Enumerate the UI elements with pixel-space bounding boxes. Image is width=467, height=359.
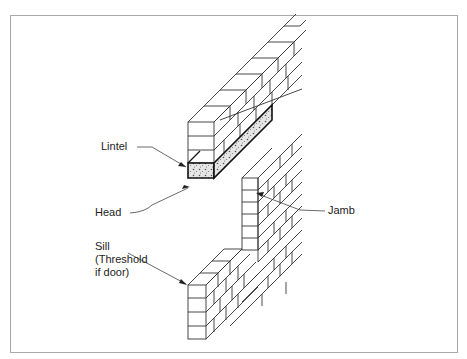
leader-lines bbox=[128, 147, 325, 284]
wall-opening-drawing bbox=[0, 0, 467, 359]
label-jamb: Jamb bbox=[328, 204, 355, 217]
label-lintel: Lintel bbox=[101, 140, 127, 153]
lower-wall-sill bbox=[188, 249, 258, 339]
head-arrow-icon bbox=[182, 185, 190, 189]
label-sill-if-door: if door) bbox=[95, 266, 129, 279]
sill-arrow-icon bbox=[179, 279, 187, 285]
label-sill-threshold: (Threshold bbox=[95, 253, 148, 266]
head-leader bbox=[130, 188, 188, 213]
label-head: Head bbox=[95, 206, 121, 219]
label-sill: Sill bbox=[95, 240, 110, 253]
lintel-leader bbox=[137, 147, 186, 167]
